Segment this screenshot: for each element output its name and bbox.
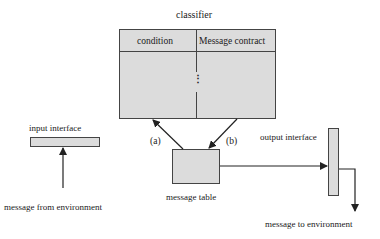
arrow-b bbox=[209, 119, 237, 148]
connectors bbox=[0, 0, 380, 239]
arrow-output-to-env bbox=[339, 169, 355, 211]
arrow-a bbox=[153, 120, 183, 149]
